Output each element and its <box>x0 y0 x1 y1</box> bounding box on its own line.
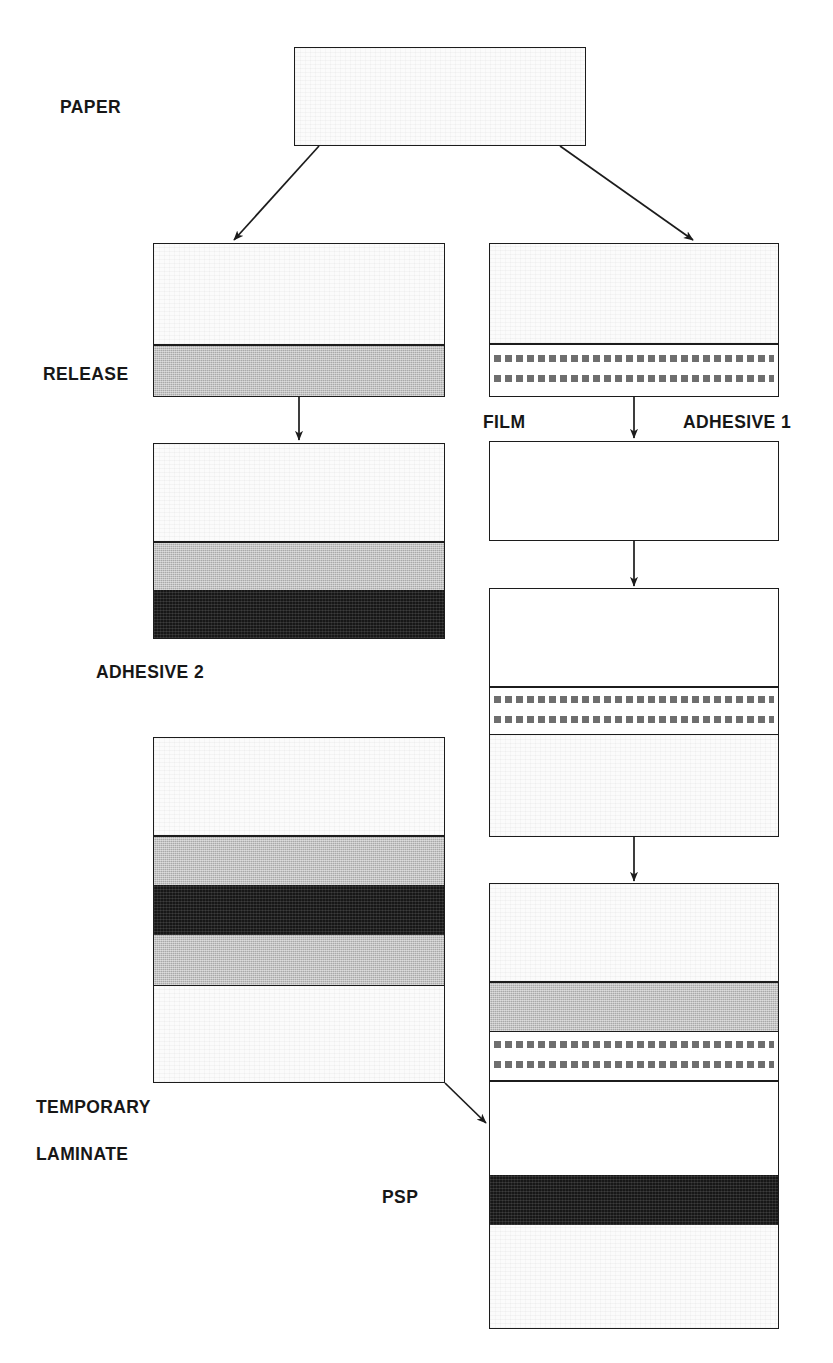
layer-release <box>154 837 444 885</box>
layer-paper-2 <box>154 986 444 1082</box>
layer-clear <box>490 1082 778 1175</box>
layer-film <box>490 244 778 343</box>
arrow-paper-to-film <box>560 146 693 240</box>
adhesive-dash-row <box>494 1061 774 1068</box>
node-film-adhesive-carrier <box>489 588 779 837</box>
layer-film <box>490 735 778 836</box>
node-temporary-laminate <box>153 737 445 1083</box>
layer-adhesive-1 <box>490 688 778 734</box>
layer-paper <box>490 884 778 981</box>
label-film: FILM <box>483 414 525 432</box>
layer-release <box>154 543 444 590</box>
layer-adhesive-2 <box>490 1175 778 1225</box>
layer-release-2 <box>154 935 444 985</box>
layer-release <box>490 983 778 1031</box>
node-release <box>153 243 445 397</box>
adhesive-dash-row <box>494 375 774 382</box>
layer-adhesive-2 <box>154 590 444 638</box>
arrow-paper-to-release <box>234 146 319 240</box>
layer-adhesive-1 <box>490 1032 778 1080</box>
node-carrier <box>489 441 779 541</box>
layer-paper-2 <box>490 1225 778 1328</box>
adhesive-dash-row <box>494 1041 774 1048</box>
label-adhesive-2: ADHESIVE 2 <box>96 664 204 682</box>
layer-paper <box>154 244 444 344</box>
label-laminate: LAMINATE <box>36 1146 128 1164</box>
node-film-adhesive-1 <box>489 243 779 397</box>
adhesive-dash-row <box>494 696 774 703</box>
label-paper: PAPER <box>60 99 121 117</box>
adhesive-dash-row <box>494 716 774 723</box>
arrow-laminate-to-psp <box>445 1083 486 1123</box>
layer-paper <box>154 738 444 835</box>
layer-release <box>154 346 444 396</box>
label-release: RELEASE <box>43 366 128 384</box>
layer-adhesive-2 <box>154 885 444 935</box>
layer-clear <box>490 589 778 686</box>
layer-adhesive-1 <box>490 345 778 396</box>
node-psp <box>489 883 779 1329</box>
layer-paper <box>295 48 585 145</box>
label-adhesive-1: ADHESIVE 1 <box>683 414 791 432</box>
layer-paper <box>154 444 444 541</box>
node-paper <box>294 47 586 146</box>
diagram-canvas: PAPER RELEASE ADHESIVE 2 TEMPORARY LAMIN… <box>0 0 833 1363</box>
label-psp: PSP <box>382 1189 418 1207</box>
layer-clear <box>490 442 778 540</box>
node-adhesive-2 <box>153 443 445 639</box>
adhesive-dash-row <box>494 355 774 362</box>
label-temporary: TEMPORARY <box>36 1099 151 1117</box>
